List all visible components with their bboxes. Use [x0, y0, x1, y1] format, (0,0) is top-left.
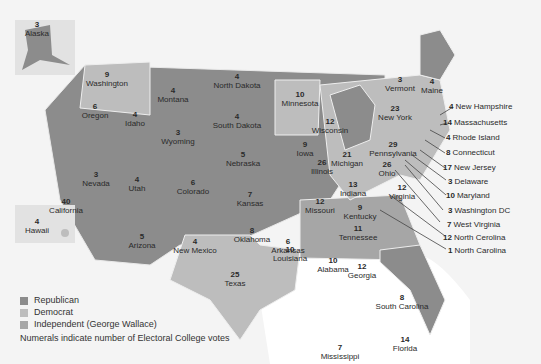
- callout-new-hampshire: 4New Hampshire: [449, 102, 512, 112]
- callout-delaware: 3Delaware: [448, 177, 488, 187]
- label-oklahoma: 8Oklahoma: [234, 226, 270, 244]
- label-nevada: 3Nevada: [82, 170, 110, 188]
- swatch-icon: [20, 309, 28, 317]
- label-vermont: 3Vermont: [385, 75, 415, 93]
- label-kentucky: 9Kentucky: [344, 203, 377, 221]
- label-north-dakota: 4North Dakota: [213, 72, 260, 90]
- label-louisiana: 10Louisiana: [273, 245, 307, 263]
- label-oregon: 6Oregon: [82, 102, 109, 120]
- legend: Republican Democrat Independent (George …: [20, 295, 157, 331]
- label-utah: 4Utah: [129, 175, 146, 193]
- label-idaho: 4Idaho: [125, 110, 145, 128]
- label-alabama: 10Alabama: [317, 256, 349, 274]
- callout-massachusetts: 14Massachusetts: [443, 118, 507, 128]
- label-wyoming: 3Wyoming: [161, 128, 194, 146]
- callout-west-virginia: 7West Virginia: [447, 220, 500, 230]
- label-alaska: 3Alaska: [25, 20, 49, 38]
- callout-rhode-island: 4Rhode Island: [446, 133, 500, 143]
- label-missouri: 12Missouri: [305, 197, 335, 215]
- label-south-dakota: 4South Dakota: [213, 112, 261, 130]
- label-new-mexico: 4New Mexico: [173, 237, 217, 255]
- label-virginia: 12Virginia: [389, 183, 416, 201]
- legend-item-democrat: Democrat: [20, 307, 157, 318]
- label-new-york: 23New York: [378, 104, 412, 122]
- callout-connecticut: 8Connecticut: [446, 148, 495, 158]
- legend-item-independent: Independent (George Wallace): [20, 319, 157, 330]
- label-georgia: 12Georgia: [348, 262, 376, 280]
- callout-maryland: 10Maryland: [446, 191, 490, 201]
- label-california: 40California: [49, 197, 83, 215]
- label-kansas: 7Kansas: [237, 190, 264, 208]
- label-tennessee: 11Tennessee: [339, 224, 378, 242]
- callout-washington-dc: 3Washington DC: [448, 206, 510, 216]
- callout-north-carolina-12: 12North Cerolina: [443, 233, 505, 243]
- footnote: Numerals indicate number of Electoral Co…: [20, 333, 230, 343]
- label-colorado: 6Colorado: [177, 178, 209, 196]
- label-texas: 25Texas: [225, 270, 246, 288]
- label-south-carolina: 8South Carolina: [376, 293, 429, 311]
- label-montana: 4Montana: [157, 86, 188, 104]
- label-maine: 4Maine: [421, 77, 443, 95]
- legend-item-republican: Republican: [20, 295, 157, 306]
- swatch-icon: [20, 297, 28, 305]
- label-florida: 14Florida: [393, 335, 417, 353]
- label-hawaii: 4Hawaii: [25, 217, 49, 235]
- label-pennsylvania: 29Pennsylvania: [369, 140, 417, 158]
- label-arizona: 5Arizona: [128, 232, 155, 250]
- label-iowa: 9Iowa: [297, 140, 314, 158]
- label-washington: 9Washington: [86, 70, 128, 88]
- label-michigan: 21Michigan: [331, 150, 363, 168]
- label-minnesota: 10Minnesota: [282, 90, 319, 108]
- callout-north-carolina-1: 1North Carolina: [448, 246, 506, 256]
- label-nebraska: 5Nebraska: [226, 150, 260, 168]
- label-indiana: 13Indiana: [340, 180, 366, 198]
- label-wisconsin: 12Wisconsin: [312, 117, 348, 135]
- label-illinois: 26Illinois: [311, 158, 333, 176]
- label-mississippi: 7Mississippi: [321, 343, 360, 361]
- callout-new-jersey: 17New Jersey: [443, 163, 496, 173]
- swatch-icon: [20, 321, 28, 329]
- label-ohio: 26Ohio: [379, 160, 396, 178]
